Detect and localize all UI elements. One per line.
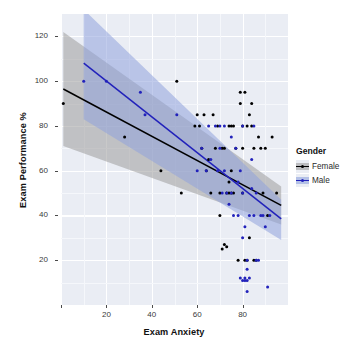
data-point (159, 169, 162, 172)
data-point (268, 214, 271, 217)
data-point (259, 147, 262, 150)
data-point (248, 277, 251, 280)
legend-item-female[interactable]: Female (296, 160, 358, 173)
x-tick-label: 60 (182, 311, 212, 319)
data-point (200, 147, 203, 150)
data-point (250, 102, 253, 105)
data-point (262, 192, 265, 195)
data-point (271, 136, 274, 139)
data-point (123, 136, 126, 139)
data-point (196, 113, 199, 116)
y-tick-label: 20 (24, 256, 48, 264)
data-point (228, 203, 231, 206)
data-point (223, 169, 226, 172)
legend-key-point (301, 165, 304, 168)
data-point (139, 91, 142, 94)
plot-panel (61, 14, 288, 305)
data-point (246, 279, 249, 282)
legend-entries: FemaleMale (296, 160, 358, 187)
legend-item-male[interactable]: Male (296, 174, 358, 187)
data-point (246, 268, 249, 271)
x-axis-title: Exam Anxiety (60, 327, 288, 337)
data-point (180, 192, 183, 195)
data-point (198, 124, 201, 127)
data-point (264, 225, 267, 228)
data-point (252, 214, 255, 217)
data-point (237, 180, 240, 183)
y-tick-label: 60 (24, 167, 48, 175)
data-point (241, 124, 244, 127)
data-point (193, 124, 196, 127)
x-tick-mark (61, 305, 62, 308)
data-point (241, 147, 244, 150)
legend-label: Male (312, 176, 330, 185)
data-point (255, 192, 258, 195)
x-tick-label: 80 (228, 311, 258, 319)
data-point (250, 158, 253, 161)
data-point (223, 124, 226, 127)
data-point (216, 169, 219, 172)
x-tick-label: 20 (91, 311, 121, 319)
data-point (218, 124, 221, 127)
data-point (144, 113, 147, 116)
y-tick-label: 40 (24, 211, 48, 219)
y-tick-mark (55, 81, 58, 82)
data-point (232, 214, 235, 217)
data-point (209, 192, 212, 195)
y-tick-mark (55, 36, 58, 37)
data-point (221, 192, 224, 195)
data-point (62, 102, 65, 105)
x-tick-label: 40 (137, 311, 167, 319)
plot-series-layer (61, 14, 288, 305)
data-point (266, 286, 269, 289)
data-point (175, 113, 178, 116)
y-tick-mark (55, 171, 58, 172)
y-tick-label: 80 (24, 122, 48, 130)
legend-label: Female (312, 162, 339, 171)
data-point (196, 169, 199, 172)
data-point (218, 147, 221, 150)
y-tick-label: 120 (24, 32, 48, 40)
data-point (243, 277, 246, 280)
data-point (212, 113, 215, 116)
x-tick-mark (197, 305, 198, 308)
legend-key-male (296, 174, 309, 187)
data-point (246, 259, 249, 262)
data-point (252, 147, 255, 150)
data-point (243, 91, 246, 94)
x-tick-mark (152, 305, 153, 308)
data-point (264, 147, 267, 150)
data-point (175, 80, 178, 83)
data-point (248, 236, 251, 239)
data-point (218, 214, 221, 217)
y-tick-mark (55, 260, 58, 261)
data-point (246, 124, 249, 127)
y-tick-mark (55, 215, 58, 216)
data-point (223, 243, 226, 246)
data-point (262, 214, 265, 217)
data-point (221, 248, 224, 251)
y-axis-tick-labels: 20406080100120 (22, 0, 48, 351)
legend-title: Gender (296, 146, 358, 156)
data-point (230, 192, 233, 195)
data-point (252, 124, 255, 127)
data-point (237, 259, 240, 262)
data-point (241, 192, 244, 195)
y-tick-mark (55, 126, 58, 127)
data-point (232, 124, 235, 127)
data-point (241, 236, 244, 239)
legend: Gender FemaleMale (296, 146, 358, 188)
x-tick-mark (243, 305, 244, 308)
legend-key-female (296, 160, 309, 173)
data-point (223, 147, 226, 150)
data-point (234, 147, 237, 150)
data-point (203, 113, 206, 116)
data-point (248, 214, 251, 217)
data-point (209, 158, 212, 161)
data-point (239, 277, 242, 280)
data-point (82, 80, 85, 83)
exam-anxiety-performance-chart: Exam Performance % 20406080100120 204060… (0, 0, 359, 351)
legend-key-point (301, 179, 304, 182)
data-point (105, 80, 108, 83)
data-point (205, 169, 208, 172)
